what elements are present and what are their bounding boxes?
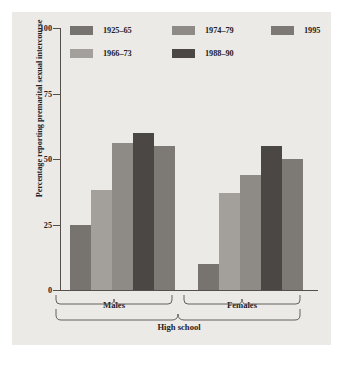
y-axis-tick-label: 0 [12, 286, 52, 295]
bar [91, 190, 112, 290]
y-axis-tick-label: 25 [12, 220, 52, 229]
y-axis-title: Percentage reporting premarital sexual i… [35, 0, 44, 224]
bar [261, 146, 282, 290]
group-brace-females [182, 294, 302, 306]
y-axis-tick [53, 94, 61, 95]
y-axis-tick-label: 50 [12, 155, 52, 164]
chart-figure: Percentage reporting premarital sexual i… [12, 12, 331, 345]
bar [219, 193, 240, 290]
plot-area: 0255075100 [60, 28, 314, 290]
bar [282, 159, 303, 290]
x-axis-line [54, 290, 318, 291]
overall-brace-high-school [54, 308, 304, 322]
bar [112, 143, 133, 290]
y-axis-tick [53, 28, 61, 29]
bar [70, 225, 91, 291]
group-brace-males [54, 294, 174, 306]
y-axis-tick-label: 75 [12, 89, 52, 98]
bar [240, 175, 261, 290]
y-axis-tick [53, 225, 61, 226]
bar [133, 133, 154, 290]
x-axis-overall-label: High school [54, 322, 304, 332]
bar [198, 264, 219, 290]
y-axis-tick [53, 159, 61, 160]
y-axis-tick [53, 290, 61, 291]
y-axis-tick-label: 100 [12, 24, 52, 33]
bar [154, 146, 175, 290]
